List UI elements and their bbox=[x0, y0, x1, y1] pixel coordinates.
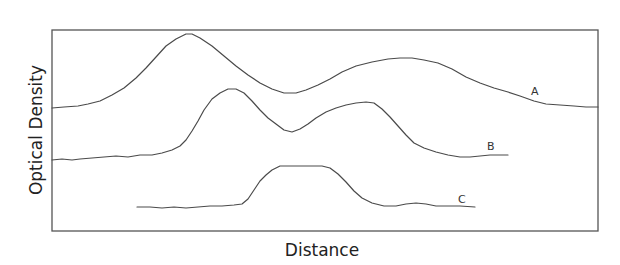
curve-b bbox=[52, 89, 508, 160]
plot-frame bbox=[52, 30, 598, 231]
curve-c-label: C bbox=[458, 193, 466, 206]
curve-c bbox=[137, 166, 475, 208]
optical-density-chart: A B C Distance Optical Density bbox=[0, 0, 620, 265]
curve-a bbox=[52, 34, 598, 108]
y-axis-label: Optical Density bbox=[26, 65, 46, 195]
x-axis-label: Distance bbox=[285, 240, 359, 260]
curve-a-label: A bbox=[531, 85, 539, 98]
curve-b-label: B bbox=[487, 140, 495, 153]
